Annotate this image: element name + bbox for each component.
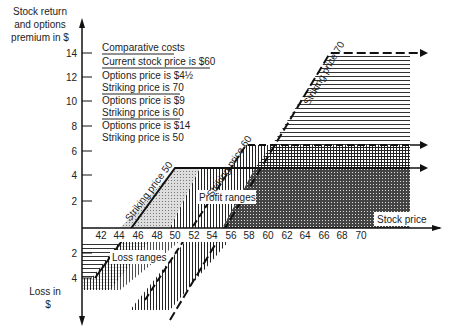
x-tick-46: 46 bbox=[132, 230, 144, 241]
x-tick-50: 50 bbox=[169, 230, 181, 241]
x-tick-60: 60 bbox=[262, 230, 274, 241]
x-tick-56: 56 bbox=[225, 230, 237, 241]
y-tick-14: 14 bbox=[66, 48, 78, 59]
y-tick-6: 6 bbox=[71, 146, 77, 157]
y-tick-neg-2: 2 bbox=[71, 248, 77, 259]
y-tick-2: 2 bbox=[71, 196, 77, 207]
y-axis-title-line2: and options bbox=[14, 19, 66, 30]
loss-ranges-label: Loss ranges bbox=[112, 252, 166, 263]
legend-option60-price: Options price is $9 bbox=[102, 95, 185, 106]
x-tick-64: 64 bbox=[299, 230, 311, 241]
strike70-profit-area bbox=[272, 53, 410, 145]
x-tick-54: 54 bbox=[206, 230, 218, 241]
x-tick-48: 48 bbox=[151, 230, 163, 241]
x-tick-66: 66 bbox=[318, 230, 330, 241]
y-tick-12: 12 bbox=[66, 72, 78, 83]
legend-current-price: Current stock price is $60 bbox=[102, 56, 216, 67]
x-tick-58: 58 bbox=[243, 230, 255, 241]
legend-strike60: Striking price is 60 bbox=[102, 107, 184, 118]
y-tick-4: 4 bbox=[71, 170, 77, 181]
x-tick-44: 44 bbox=[113, 230, 125, 241]
y-tick-8: 8 bbox=[71, 121, 77, 132]
overlap-grid-area bbox=[255, 145, 410, 168]
x-axis-title: Stock price bbox=[377, 214, 427, 225]
y-tick-10: 10 bbox=[66, 96, 78, 107]
y-axis-title-line1: Stock return bbox=[13, 6, 67, 17]
x-tick-70: 70 bbox=[355, 230, 367, 241]
x-tick-52: 52 bbox=[188, 230, 200, 241]
y-axis-title-line3: premium in $ bbox=[11, 32, 69, 43]
loss-axis-title-line2: $ bbox=[45, 299, 51, 310]
x-tick-62: 62 bbox=[281, 230, 293, 241]
x-tick-68: 68 bbox=[336, 230, 348, 241]
options-payoff-chart: 14 12 10 8 6 4 2 2 4 42 44 46 48 50 52 5… bbox=[0, 0, 457, 329]
y-tick-neg-4: 4 bbox=[71, 273, 77, 284]
legend-option70-price: Options price is $4½ bbox=[102, 70, 194, 81]
legend-title: Comparative costs bbox=[102, 42, 185, 53]
loss-axis-title-line1: Loss in bbox=[29, 286, 61, 297]
legend-option50-price: Options price is $14 bbox=[102, 120, 191, 131]
legend-strike50: Striking price is 50 bbox=[102, 132, 184, 143]
legend: Comparative costs Current stock price is… bbox=[102, 42, 216, 143]
legend-strike70: Striking price is 70 bbox=[102, 82, 184, 93]
x-tick-42: 42 bbox=[95, 230, 107, 241]
